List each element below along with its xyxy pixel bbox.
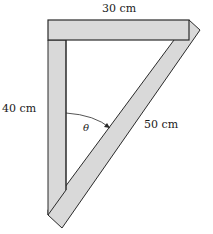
label-angle-theta: θ — [83, 123, 89, 133]
label-left-length: 40 cm — [2, 103, 36, 114]
label-top-length: 30 cm — [102, 3, 136, 14]
label-hypotenuse-length: 50 cm — [144, 119, 178, 130]
top-bar — [48, 20, 189, 40]
vertical-bar — [48, 40, 66, 215]
frame-drawing — [0, 0, 213, 234]
triangle-frame-diagram: 30 cm 40 cm 50 cm θ — [0, 0, 213, 234]
